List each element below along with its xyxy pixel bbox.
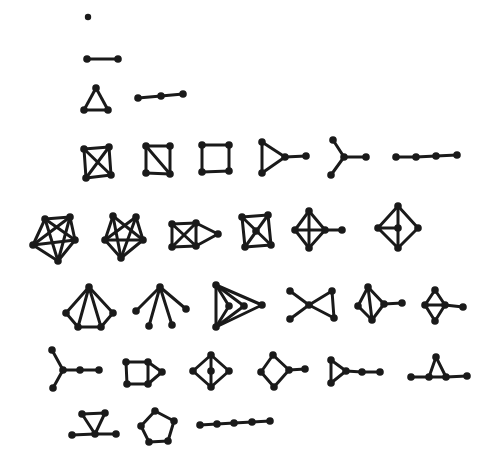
graph-edge [262,142,285,157]
graph-edge [109,147,111,175]
graph-vertex [137,422,145,430]
graph-vertex [321,226,329,234]
graph-vertex [364,283,372,291]
graph-edge [398,228,418,248]
graph-vertex [164,437,172,445]
graph-vertex [122,358,130,366]
graph-vertex [97,323,105,331]
graph-vertex [412,153,420,161]
graph-vertex [156,283,164,291]
graph-vertex [270,383,278,391]
graph-edge [398,206,418,228]
graph-vertex [109,309,117,317]
graph-vertex [281,153,289,161]
graph-vertex [123,380,131,388]
graph-spider [48,346,103,392]
graph-vertex [214,230,222,238]
graph-vertex [442,373,450,381]
graph-vertex [91,430,99,438]
graph-bowtie-pendants [286,287,338,323]
graph-diamond-pendant [354,283,406,324]
graph-path-2 [83,55,122,63]
graph-vertex [421,301,429,309]
graph-vertex [301,365,309,373]
graph-vertex [398,299,406,307]
graph-vertex [158,368,166,376]
graph-vertex [340,153,348,161]
graph-vertex [354,302,362,310]
graph-vertex [168,220,176,228]
graph-vertex [305,301,313,309]
graph-vertex [62,309,70,317]
graph-vertex [267,241,275,249]
graph-K5 [29,213,79,265]
graph-vertex [134,94,142,102]
graph-vertex [376,368,384,376]
graph-vertex [179,90,187,98]
graph-vertex [132,307,140,315]
graph-edge [84,149,86,178]
graph-vertex [463,372,471,380]
graph-vertex [48,346,56,354]
graph-vertex [80,106,88,114]
graph-vertex [145,438,153,446]
graph-vertex [258,138,266,146]
graph-vertex [257,368,265,376]
graph-vertex [139,236,147,244]
graph-catalogue-figure [0,0,496,470]
graph-edge [202,171,229,172]
graph-diamond-pendant-2 [421,286,467,325]
graph-vertex [258,301,266,309]
graph-vertex [82,174,90,182]
graph-vertex [394,244,402,252]
graph-vertex [198,168,206,176]
graph-vertex [266,417,274,425]
graph-vertex [431,317,439,325]
graph-path-5 [196,417,274,429]
graph-vertex [380,300,388,308]
graph-edge [86,147,109,178]
graph-vertex [212,281,220,289]
graph-vertex [338,226,346,234]
graph-vertex [117,254,125,262]
graph-vertex [104,106,112,114]
graph-vertex [392,153,400,161]
graph-vertex [286,315,294,323]
graph-vertex [225,367,233,375]
graph-vertex [459,303,467,311]
graph-vertex [291,226,299,234]
graph-vertex [441,301,449,309]
graph-vertex [192,242,200,250]
graph-vertex [49,384,57,392]
graph-vertex [212,323,220,331]
graph-vertex [394,224,402,232]
graph-vertex [302,152,310,160]
graph-vertex [29,241,37,249]
graph-vertex [101,409,109,417]
graph-vertex [230,419,238,427]
graph-vertex [358,368,366,376]
graph-K4-diamond-pendant [291,207,346,252]
graph-vertex [407,373,415,381]
graph-vertex [192,219,200,227]
graph-paw-path [327,356,384,387]
graph-vertex [78,410,86,418]
graph-vertex [182,305,190,313]
graph-vertex [213,420,221,428]
graph-vertex [258,169,266,177]
graph-vertex [142,142,150,150]
graph-K4-with-ear [168,219,222,251]
graph-path-3 [134,90,187,102]
graph-vertex [269,351,277,359]
graph-vertex [189,367,197,375]
graph-vertex [241,243,249,251]
graph-vertex [425,373,433,381]
graph-edge [242,215,268,217]
graph-vertex [166,170,174,178]
graph-vertex [166,142,174,150]
graph-vertex [305,244,313,252]
graph-star-claw [327,136,370,179]
graph-vertex [327,171,335,179]
graph-diamond-with-center [189,351,233,391]
graph-vertex [71,236,79,244]
